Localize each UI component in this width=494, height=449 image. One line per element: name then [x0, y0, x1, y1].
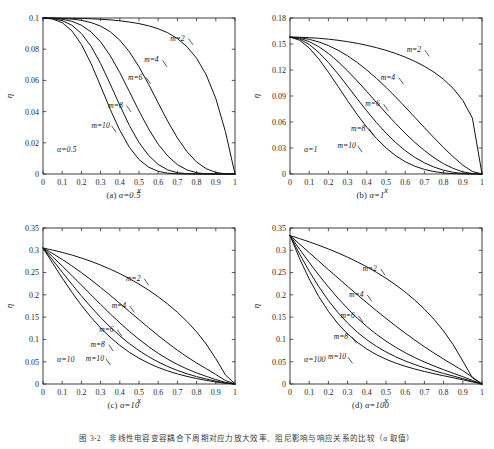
- plot-area-d: 00.10.20.30.40.50.60.70.80.9100.050.10.1…: [247, 214, 494, 424]
- panel-c-xticklabel: 0.2: [76, 388, 86, 397]
- panel-d-curve-label-2: m=2: [362, 264, 385, 275]
- panel-d-xticklabel: 0: [288, 388, 292, 397]
- panel-b-xticklabel: 0.1: [304, 178, 314, 187]
- panel-c-xticklabel: 0.8: [192, 388, 202, 397]
- subplot-caption-c: (c) α=10: [0, 400, 247, 410]
- panel-b-xticklabel: 0.9: [458, 178, 468, 187]
- panel-b-yticklabel: 0: [282, 170, 286, 179]
- subplot-caption-prefix-d: (d): [352, 400, 363, 410]
- panel-a-yticklabel: 0.02: [25, 139, 39, 148]
- panel-b-yticklabel: 0.15: [272, 40, 286, 49]
- panel-b-curve-label-10: m=10: [338, 141, 363, 152]
- plot-area-b: 00.10.20.30.40.50.60.70.80.9100.030.060.…: [247, 4, 494, 214]
- panel-d-yticklabel: 0.1: [276, 335, 286, 344]
- panel-b-ylabel: η: [251, 93, 261, 98]
- panel-a-curve-label-10: m=10: [91, 121, 116, 132]
- panel-c-yticklabel: 0.05: [25, 358, 39, 367]
- panel-d-xticklabel: 0.2: [323, 388, 333, 397]
- subplot-caption-value-a: α=0.5: [119, 190, 141, 200]
- subplot-caption-value-c: α=10: [120, 400, 140, 410]
- panel-b-yticklabel: 0.09: [272, 92, 286, 101]
- panel-a-xticklabel: 0.4: [115, 178, 125, 187]
- svg-text:m=4: m=4: [112, 301, 127, 310]
- subplot-caption-value-d: α=100: [365, 400, 389, 410]
- panel-a-curve-label-2: m=2: [170, 34, 193, 45]
- subplot-caption-prefix-a: (a): [106, 190, 116, 200]
- panel-b-xticklabel: 0.8: [439, 178, 449, 187]
- panel-c-yticklabel: 0.3: [29, 246, 39, 255]
- panel-b-yticklabel: 0.18: [272, 14, 286, 23]
- subplot-caption-prefix-c: (c): [108, 400, 118, 410]
- panel-d-xticklabel: 0.6: [400, 388, 410, 397]
- subplot-caption-a: (a) α=0.5: [0, 190, 247, 200]
- panel-b-yticklabel: 0.06: [272, 118, 286, 127]
- panel-b-curve-m-10: [290, 37, 482, 174]
- panel-c-xticklabel: 0.4: [115, 388, 125, 397]
- panel-c-yticklabel: 0.1: [29, 335, 39, 344]
- panel-d-xticklabel: 0.4: [362, 388, 372, 397]
- panel-a-ylabel: η: [4, 93, 14, 98]
- subplot-caption-b: (b) α=1: [247, 190, 494, 200]
- panel-c-curve-label-10: m=10: [86, 354, 111, 365]
- panel-c-yticklabel: 0.25: [25, 268, 39, 277]
- panel-a-yticklabel: 0.06: [25, 76, 39, 85]
- panel-a-xticklabel: 0: [41, 178, 45, 187]
- panel-b-xticklabel: 0.2: [323, 178, 333, 187]
- panel-d-inset-alpha-label: α=100: [304, 355, 326, 364]
- svg-text:m=6: m=6: [340, 311, 355, 320]
- panel-b-svg: 00.10.20.30.40.50.60.70.80.9100.030.060.…: [247, 4, 494, 214]
- panel-a-xticklabel: 0.7: [172, 178, 182, 187]
- panel-d-yticklabel: 0: [282, 380, 286, 389]
- panel-d-yticklabel: 0.2: [276, 291, 286, 300]
- panel-a-xticklabel: 0.1: [57, 178, 67, 187]
- subplot-caption-d: (d) α=100: [247, 400, 494, 410]
- panel-d-xticklabel: 0.9: [458, 388, 468, 397]
- subplot-caption-prefix-b: (b): [357, 190, 368, 200]
- subplot-panel-b: 00.10.20.30.40.50.60.70.80.9100.030.060.…: [247, 4, 494, 214]
- panel-d-curve-label-4: m=4: [349, 290, 372, 301]
- panel-b-inset-alpha-label: α=1: [304, 145, 318, 154]
- panel-c-yticklabel: 0: [35, 380, 39, 389]
- subplot-grid: 00.10.20.30.40.50.60.70.80.9100.020.040.…: [0, 4, 494, 424]
- svg-text:m=6: m=6: [128, 73, 143, 82]
- panel-c-xticklabel: 0.1: [57, 388, 67, 397]
- svg-text:m=10: m=10: [338, 141, 356, 150]
- panel-d-curve-label-8: m=8: [334, 332, 357, 343]
- subplot-caption-value-b: α=1: [369, 190, 384, 200]
- panel-c-xticklabel: 0.7: [172, 388, 182, 397]
- panel-a-xticklabel: 1: [233, 178, 237, 187]
- panel-d-xticklabel: 0.3: [343, 388, 353, 397]
- panel-c-yticklabel: 0.2: [29, 291, 39, 300]
- panel-a-curve-label-4: m=4: [144, 55, 167, 66]
- panel-b-frame: [290, 18, 482, 174]
- svg-text:m=8: m=8: [334, 332, 349, 341]
- svg-text:m=10: m=10: [91, 121, 109, 130]
- panel-c-xticklabel: 0: [41, 388, 45, 397]
- panel-c-curve-label-8: m=8: [91, 340, 114, 351]
- panel-d-xticklabel: 0.7: [419, 388, 429, 397]
- panel-b-curve-label-2: m=2: [407, 45, 430, 56]
- panel-d-ylabel: η: [251, 303, 261, 308]
- svg-text:m=4: m=4: [381, 73, 396, 82]
- panel-d-xticklabel: 0.8: [439, 388, 449, 397]
- svg-text:m=4: m=4: [349, 290, 364, 299]
- panel-a-xticklabel: 0.8: [192, 178, 202, 187]
- panel-c-yticklabel: 0.35: [25, 224, 39, 233]
- panel-d-svg: 00.10.20.30.40.50.60.70.80.9100.050.10.1…: [247, 214, 494, 424]
- panel-a-xticklabel: 0.3: [96, 178, 106, 187]
- panel-b-xticklabel: 0.6: [400, 178, 410, 187]
- plot-area-a: 00.10.20.30.40.50.60.70.80.9100.020.040.…: [0, 4, 247, 214]
- svg-text:m=6: m=6: [365, 99, 380, 108]
- panel-d-yticklabel: 0.05: [272, 358, 286, 367]
- svg-text:m=2: m=2: [126, 274, 141, 283]
- svg-text:m=6: m=6: [99, 325, 114, 334]
- svg-text:m=2: m=2: [170, 34, 185, 43]
- panel-a-svg: 00.10.20.30.40.50.60.70.80.9100.020.040.…: [0, 4, 247, 214]
- subplot-panel-c: 00.10.20.30.40.50.60.70.80.9100.050.10.1…: [0, 214, 247, 424]
- svg-text:m=4: m=4: [144, 55, 159, 64]
- panel-a-xticklabel: 0.6: [153, 178, 163, 187]
- panel-b-curve-m-4: [290, 37, 482, 174]
- panel-d-curve-label-10: m=10: [328, 352, 353, 363]
- panel-a-inset-alpha-label: α=0.5: [57, 145, 77, 154]
- panel-c-yticklabel: 0.15: [25, 313, 39, 322]
